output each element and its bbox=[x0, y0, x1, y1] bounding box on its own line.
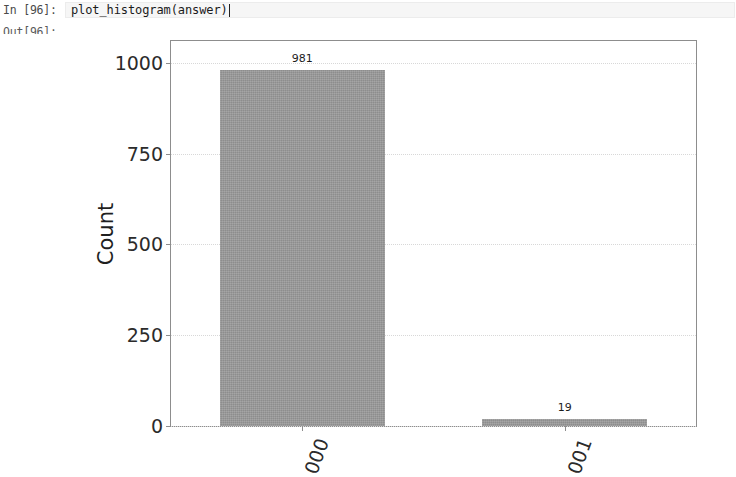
y-axis-tick bbox=[166, 63, 171, 64]
y-axis-tick-label: 500 bbox=[127, 235, 163, 254]
notebook-input-row: In [96]: plot_histogram(answer) bbox=[0, 2, 735, 18]
y-axis-tick bbox=[166, 426, 171, 427]
plot-axes: 0250500750100098100019001 bbox=[170, 40, 697, 427]
y-axis-label-text: Count bbox=[94, 202, 118, 264]
x-axis-tick bbox=[565, 426, 566, 431]
y-axis-tick bbox=[166, 244, 171, 245]
y-axis-label: Count bbox=[92, 40, 120, 427]
y-axis-tick-label: 750 bbox=[127, 144, 163, 163]
matplotlib-figure: Count 0250500750100098100019001 bbox=[0, 34, 736, 477]
x-axis-tick-label: 001 bbox=[564, 436, 594, 477]
code-input-cell[interactable]: plot_histogram(answer) bbox=[65, 2, 735, 18]
gridline bbox=[171, 426, 696, 427]
x-axis-tick-label: 000 bbox=[302, 436, 332, 477]
text-cursor bbox=[229, 4, 230, 17]
gridline bbox=[171, 63, 696, 64]
y-axis-tick-label: 0 bbox=[151, 417, 163, 436]
y-axis-tick-label: 1000 bbox=[115, 53, 163, 72]
x-axis-tick bbox=[302, 426, 303, 431]
code-text: plot_histogram(answer) bbox=[71, 3, 228, 17]
bar bbox=[482, 419, 647, 426]
y-axis-tick-label: 250 bbox=[127, 326, 163, 345]
input-prompt-label: In [96]: bbox=[0, 2, 65, 18]
y-axis-tick bbox=[166, 335, 171, 336]
bar-value-label: 981 bbox=[292, 52, 313, 65]
y-axis-tick bbox=[166, 154, 171, 155]
bar bbox=[220, 70, 385, 426]
bar-value-label: 19 bbox=[558, 401, 572, 414]
